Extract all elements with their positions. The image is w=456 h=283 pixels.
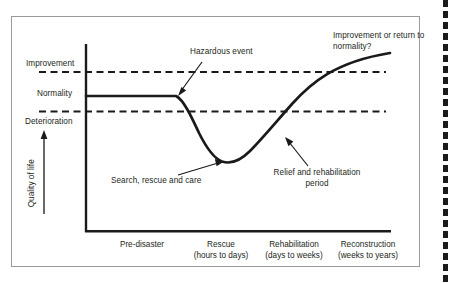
annotation-relief-and-rehabilitation-period: Relief and rehabilitation period (265, 168, 369, 189)
annotation-improvement-or-return-to-normality: Improvement or return to normality? (333, 31, 425, 52)
x-category-duration: (days to weeks) (265, 251, 322, 260)
level-label-deterioration: Deterioration (25, 117, 73, 128)
level-label-improvement: Improvement (26, 59, 74, 70)
y-axis-title: Quality of life (27, 148, 38, 218)
search-rescue-arrow (178, 159, 224, 175)
quality-of-life-curve (86, 53, 390, 162)
x-category-name: Pre-disaster (120, 240, 164, 249)
annotation-hazardous-event: Hazardous event (190, 47, 253, 58)
x-category-duration: (weeks to years) (338, 251, 398, 260)
x-category-name: Reconstruction (341, 240, 396, 249)
annotation-search-rescue-and-care: Search, rescue and care (111, 176, 201, 187)
quality-of-life-arrow (41, 130, 48, 214)
level-label-normality: Normality (37, 89, 72, 100)
x-category-name: Rehabilitation (269, 240, 319, 249)
hazardous-event-arrow (178, 62, 202, 96)
x-category-name: Rescue (207, 240, 235, 249)
relief-rehabilitation-arrow (285, 137, 308, 166)
x-category-reconstruction: Reconstruction (weeks to years) (322, 239, 414, 261)
x-category-duration: (hours to days) (194, 251, 249, 260)
